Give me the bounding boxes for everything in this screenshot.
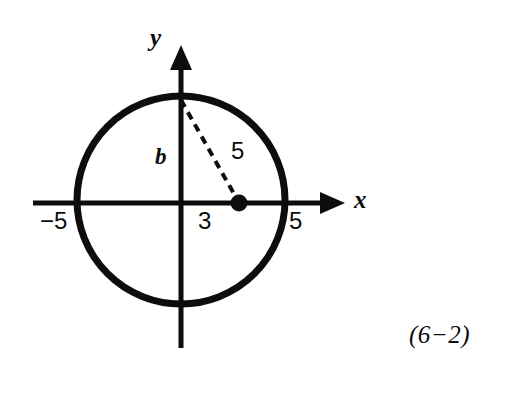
horizontal-leg-label: 3 <box>198 209 211 233</box>
dashed-radius-segment <box>181 100 238 201</box>
figure-canvas: y x b 5 3 5 −5 (6−2) <box>0 0 505 402</box>
point-marker-dot <box>231 195 248 212</box>
x-axis-arrowhead <box>320 192 345 214</box>
x-axis-label: x <box>354 187 367 212</box>
y-axis-arrowhead <box>170 45 192 70</box>
y-axis-label: y <box>150 25 161 50</box>
figure-reference-caption: (6−2) <box>409 322 470 347</box>
hypotenuse-label: 5 <box>231 139 244 163</box>
vertical-leg-label: b <box>155 145 167 168</box>
x-intercept-positive-label: 5 <box>289 209 302 233</box>
x-intercept-negative-label: −5 <box>40 209 67 233</box>
